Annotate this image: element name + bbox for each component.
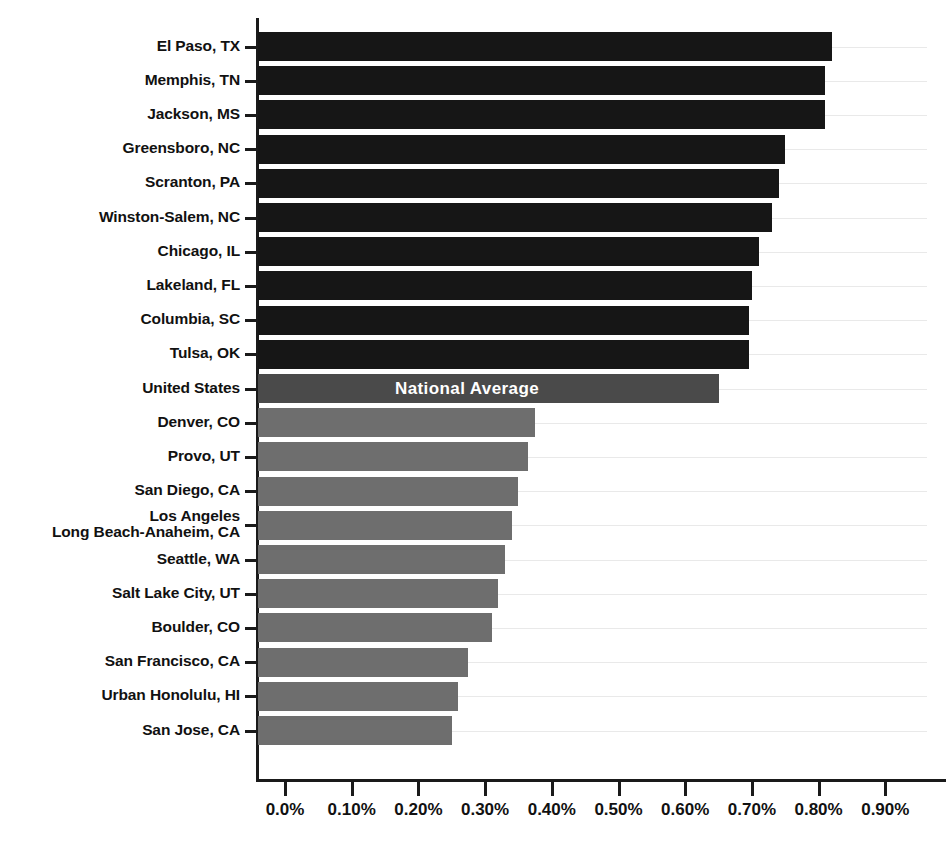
category-label: Memphis, TN	[145, 72, 240, 88]
category-label: El Paso, TX	[157, 38, 240, 54]
x-axis-tick-label: 0.0%	[266, 800, 305, 820]
x-axis-tick-label: 0.10%	[328, 800, 376, 820]
category-label: Columbia, SC	[140, 311, 240, 327]
x-axis-tick	[818, 782, 821, 796]
y-axis-tick	[245, 388, 256, 391]
category-label: Provo, UT	[168, 448, 240, 464]
bar[interactable]	[258, 66, 825, 95]
bar[interactable]	[258, 716, 452, 745]
bar[interactable]	[258, 613, 492, 642]
x-axis-tick	[751, 782, 754, 796]
bar[interactable]	[258, 545, 505, 574]
category-label: San Francisco, CA	[105, 653, 240, 669]
x-axis-tick-label: 0.40%	[528, 800, 576, 820]
bar[interactable]	[258, 477, 518, 506]
bar[interactable]	[258, 408, 535, 437]
x-axis-tick	[284, 782, 287, 796]
category-label: Boulder, CO	[152, 619, 240, 635]
y-axis-tick	[245, 148, 256, 151]
x-axis-tick-label: 0.90%	[861, 800, 909, 820]
category-label: Lakeland, FL	[146, 277, 240, 293]
y-axis-tick	[245, 524, 256, 527]
y-axis-tick	[245, 182, 256, 185]
x-axis-tick-label: 0.80%	[794, 800, 842, 820]
y-axis-tick	[245, 456, 256, 459]
x-axis-tick-label: 0.30%	[461, 800, 509, 820]
bar[interactable]	[258, 442, 528, 471]
category-label: Scranton, PA	[145, 174, 240, 190]
x-axis-tick-label: 0.70%	[728, 800, 776, 820]
category-label: United States	[142, 380, 240, 396]
category-label: Greensboro, NC	[123, 140, 240, 156]
bar[interactable]	[258, 682, 458, 711]
category-label: Los Angeles Long Beach-Anaheim, CA	[52, 508, 240, 540]
y-axis-tick	[245, 285, 256, 288]
y-axis-tick	[245, 559, 256, 562]
y-axis-tick	[245, 80, 256, 83]
category-label: Chicago, IL	[158, 243, 240, 259]
x-axis-tick	[417, 782, 420, 796]
category-label: Salt Lake City, UT	[112, 585, 240, 601]
y-axis-tick	[245, 695, 256, 698]
bar[interactable]	[258, 32, 832, 61]
y-axis-tick	[245, 46, 256, 49]
bar[interactable]: National Average	[258, 374, 719, 403]
x-axis-tick	[684, 782, 687, 796]
y-axis-tick	[245, 251, 256, 254]
bar[interactable]	[258, 203, 772, 232]
x-axis-tick-label: 0.50%	[594, 800, 642, 820]
bar[interactable]	[258, 648, 468, 677]
y-axis-tick	[245, 730, 256, 733]
y-axis-tick	[245, 217, 256, 220]
y-axis-tick	[245, 353, 256, 356]
bar[interactable]	[258, 271, 752, 300]
category-label: San Diego, CA	[135, 482, 241, 498]
category-label: San Jose, CA	[142, 722, 240, 738]
x-axis-tick-label: 0.60%	[661, 800, 709, 820]
y-axis-tick	[245, 490, 256, 493]
y-axis-tick	[245, 319, 256, 322]
x-axis-tick	[484, 782, 487, 796]
y-axis-tick	[245, 593, 256, 596]
category-label: Seattle, WA	[157, 551, 240, 567]
y-axis-tick	[245, 627, 256, 630]
bar-chart: El Paso, TXMemphis, TNJackson, MSGreensb…	[0, 0, 946, 854]
x-axis-tick-label: 0.20%	[394, 800, 442, 820]
category-label: Urban Honolulu, HI	[101, 687, 240, 703]
y-axis-tick	[245, 114, 256, 117]
category-label: Tulsa, OK	[170, 345, 240, 361]
bar[interactable]	[258, 511, 512, 540]
x-axis-tick	[618, 782, 621, 796]
bar[interactable]	[258, 579, 498, 608]
national-average-label: National Average	[395, 374, 539, 403]
category-label: Denver, CO	[157, 414, 240, 430]
bar[interactable]	[258, 237, 759, 266]
bar[interactable]	[258, 100, 825, 129]
bar[interactable]	[258, 306, 749, 335]
y-axis-tick	[245, 422, 256, 425]
category-label: Winston-Salem, NC	[99, 209, 240, 225]
x-axis-tick	[551, 782, 554, 796]
x-axis-tick	[351, 782, 354, 796]
y-axis-tick	[245, 661, 256, 664]
bar[interactable]	[258, 135, 785, 164]
chart-rows: El Paso, TXMemphis, TNJackson, MSGreensb…	[0, 0, 946, 782]
bar[interactable]	[258, 169, 779, 198]
bar[interactable]	[258, 340, 749, 369]
category-label: Jackson, MS	[147, 106, 240, 122]
x-axis-tick	[884, 782, 887, 796]
